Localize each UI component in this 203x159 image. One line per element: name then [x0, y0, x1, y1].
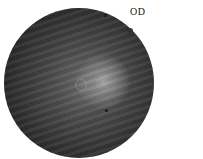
- eye-label: OD: [130, 6, 145, 17]
- fundus-figure: OD: [0, 0, 203, 159]
- optic-disc-ring: [75, 79, 87, 91]
- lesion-spot: [104, 14, 107, 17]
- edge-artifact: [127, 28, 133, 34]
- lesion-spot: [105, 109, 108, 112]
